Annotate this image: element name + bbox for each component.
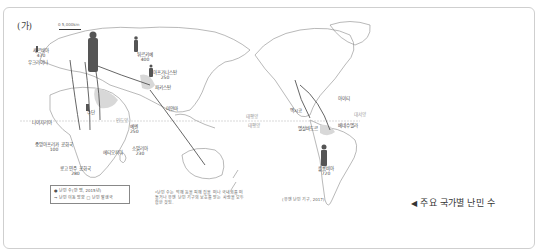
country-label-sudan: 수단: [87, 110, 95, 115]
map-legend: ● 난민 수(만 명, 2015년) → 난민 이동 방향 □ 난민 발생국: [50, 185, 130, 204]
sea-label-atlantic: 대서양: [354, 111, 366, 117]
country-label-pakistan: 파키스탄: [155, 85, 171, 90]
country-label-dr-congo: 콩고 민주 공화국280: [60, 166, 91, 176]
country-label-el-salvador: 엘살바도르: [298, 126, 318, 131]
country-label-afghanistan: 아프가니스탄250: [153, 70, 177, 80]
country-label-myanmar: 미얀마: [166, 106, 178, 111]
figure-caption: ◀주요 국가별 난민 수: [411, 196, 495, 209]
country-label-venezuela: 베네수엘라: [338, 123, 358, 128]
country-label-mexico: 멕시코: [290, 108, 302, 113]
country-label-haiti: 아이티: [338, 96, 350, 101]
source-citation: (유엔 난민 기구, 2017): [282, 196, 324, 202]
country-label-nigeria: 나이지리아: [32, 120, 52, 125]
country-label-ethiopia: 에티오피아: [103, 150, 123, 155]
country-label-yemen: 예멘250: [130, 124, 139, 134]
caption-text: 주요 국가별 난민 수: [420, 198, 495, 208]
country-label-colombia: 콜롬비아720: [318, 166, 334, 176]
legend-refugee-count: ● 난민 수(만 명, 2015년): [54, 187, 126, 194]
country-label-somalia: 소말리아230: [132, 146, 148, 156]
country-label-ukraine: 우크라이나: [28, 60, 48, 65]
sea-label-indian-ocean: 인도양: [116, 117, 128, 123]
sea-label-pacific-east: 태평양: [248, 122, 260, 128]
sea-label-pacific-west: 태평양: [246, 113, 258, 119]
footnote: *난민 수는 박해 등을 피해 집을 떠나 국내외를 떠돌거나 유엔 난민 기구…: [155, 190, 245, 205]
country-label-central-african-republic: 중앙아프리카 공화국100: [34, 142, 74, 152]
legend-migration-direction: → 난민 이동 방향 □ 난민 발생국: [54, 194, 126, 201]
country-label-serbia: 세르비아470: [33, 48, 49, 58]
triangle-left-icon: ◀: [411, 199, 417, 208]
country-label-turkey: 튀르키예400: [137, 52, 153, 62]
